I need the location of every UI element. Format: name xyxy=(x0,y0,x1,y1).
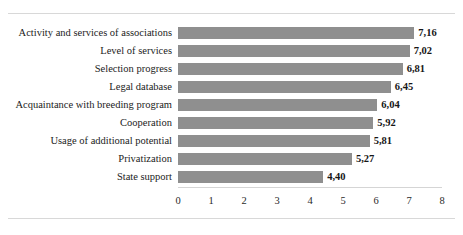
bar-value-label: 5,92 xyxy=(377,114,395,132)
x-tick-label: 0 xyxy=(166,192,190,210)
category-label: Cooperation xyxy=(12,114,172,132)
bar-value-label: 5,81 xyxy=(374,132,392,150)
bar xyxy=(178,153,352,165)
bar-value-label: 6,81 xyxy=(407,60,425,78)
x-tick-label: 5 xyxy=(331,192,355,210)
bar xyxy=(178,171,323,183)
bar xyxy=(178,117,373,129)
bar-row: Legal database6,45 xyxy=(178,78,442,96)
x-tick-label: 1 xyxy=(199,192,223,210)
bar-row: Selection progress6,81 xyxy=(178,60,442,78)
bar-chart-figure: Activity and services of associations7,1… xyxy=(0,0,463,235)
bar-row: Privatization5,27 xyxy=(178,150,442,168)
bar-value-label: 6,04 xyxy=(381,96,399,114)
x-axis-tick-labels: 012345678 xyxy=(178,192,442,210)
figure-bottom-rule xyxy=(8,218,455,219)
x-tick-label: 3 xyxy=(265,192,289,210)
bar-row: State support4,40 xyxy=(178,168,442,186)
category-label: Selection progress xyxy=(12,60,172,78)
bar xyxy=(178,135,370,147)
bar xyxy=(178,99,377,111)
category-label: Acquaintance with breeding program xyxy=(12,96,172,114)
bar-value-label: 6,45 xyxy=(395,78,413,96)
plot-area: Activity and services of associations7,1… xyxy=(178,24,442,186)
category-label: Activity and services of associations xyxy=(12,24,172,42)
bar-row: Usage of additional potential5,81 xyxy=(178,132,442,150)
x-tick-label: 4 xyxy=(298,192,322,210)
category-label: Usage of additional potential xyxy=(12,132,172,150)
x-tick-label: 6 xyxy=(364,192,388,210)
bar-row: Acquaintance with breeding program6,04 xyxy=(178,96,442,114)
x-axis-line xyxy=(178,187,442,188)
figure-top-rule xyxy=(8,13,455,14)
bar xyxy=(178,81,391,93)
bar-value-label: 7,16 xyxy=(418,24,436,42)
bar xyxy=(178,27,414,39)
bar xyxy=(178,63,403,75)
bar xyxy=(178,45,410,57)
bar-row: Level of services7,02 xyxy=(178,42,442,60)
bar-value-label: 7,02 xyxy=(414,42,432,60)
category-label: State support xyxy=(12,168,172,186)
category-label: Privatization xyxy=(12,150,172,168)
category-label: Level of services xyxy=(12,42,172,60)
x-tick-label: 8 xyxy=(430,192,454,210)
bar-value-label: 4,40 xyxy=(327,168,345,186)
x-tick-label: 7 xyxy=(397,192,421,210)
bar-row: Activity and services of associations7,1… xyxy=(178,24,442,42)
bar-row: Cooperation5,92 xyxy=(178,114,442,132)
bar-value-label: 5,27 xyxy=(356,150,374,168)
category-label: Legal database xyxy=(12,78,172,96)
x-tick-label: 2 xyxy=(232,192,256,210)
